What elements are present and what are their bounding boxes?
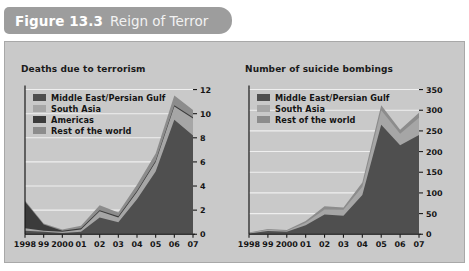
x-tick-label: 05	[376, 240, 387, 249]
legend-item: South Asia	[33, 103, 165, 114]
legend-right: Middle East/Persian GulfSouth AsiaRest o…	[257, 92, 389, 125]
y-tick-label: 0	[426, 230, 432, 239]
x-tick-label: 01	[75, 240, 86, 249]
x-tick-label: 99	[38, 240, 50, 249]
y-tick-label: 10	[200, 110, 212, 119]
legend-item-label: South Asia	[51, 104, 101, 114]
y-tick-label: 50	[426, 210, 438, 219]
legend-item-label: Middle East/Persian Gulf	[51, 93, 165, 103]
legend-swatch-icon	[257, 94, 270, 101]
y-tick-label: 2	[200, 206, 206, 215]
charts-panel: Deaths due to terrorism 1998992000010203…	[4, 41, 465, 263]
legend-item-label: Rest of the world	[51, 126, 131, 136]
x-tick-label: 02	[319, 240, 330, 249]
y-tick-label: 100	[426, 189, 443, 198]
y-tick-label: 300	[426, 106, 443, 115]
legend-swatch-icon	[33, 105, 46, 112]
x-tick-label: 04	[131, 240, 143, 249]
x-tick-label: 05	[150, 240, 161, 249]
legend-item-label: Americas	[51, 115, 94, 125]
y-tick-label: 0	[200, 230, 206, 239]
y-tick-label: 4	[200, 182, 206, 191]
y-tick-label: 150	[426, 168, 443, 177]
x-tick-label: 2000	[51, 240, 74, 249]
legend-item: Middle East/Persian Gulf	[257, 92, 389, 103]
legend-left: Middle East/Persian GulfSouth AsiaAmeric…	[33, 92, 165, 136]
chart-number-of-suicide-bombings: Number of suicide bombings 1998992000010…	[233, 42, 466, 262]
x-tick-label: 06	[395, 240, 407, 249]
legend-item: Americas	[33, 114, 165, 125]
legend-item: Rest of the world	[33, 125, 165, 136]
chart-plot-right: 1998992000010203040506070501001502002503…	[233, 42, 466, 262]
legend-item: Middle East/Persian Gulf	[33, 92, 165, 103]
legend-swatch-icon	[33, 116, 46, 123]
x-tick-label: 1998	[238, 240, 261, 249]
legend-item-label: Rest of the world	[275, 115, 355, 125]
y-tick-label: 350	[426, 86, 443, 95]
chart-deaths-due-to-terrorism: Deaths due to terrorism 1998992000010203…	[5, 42, 233, 262]
x-tick-label: 03	[113, 240, 124, 249]
x-tick-label: 01	[300, 240, 311, 249]
chart-plot-left: 199899200001020304050607024681012	[5, 42, 233, 262]
legend-item: Rest of the world	[257, 114, 389, 125]
legend-swatch-icon	[257, 116, 270, 123]
y-tick-label: 200	[426, 148, 443, 157]
legend-item: South Asia	[257, 103, 389, 114]
legend-swatch-icon	[33, 94, 46, 101]
y-tick-label: 250	[426, 127, 443, 136]
x-tick-label: 99	[262, 240, 274, 249]
x-tick-label: 2000	[276, 240, 299, 249]
x-tick-label: 04	[357, 240, 369, 249]
y-tick-label: 6	[200, 158, 206, 167]
figure-header-bar: Figure 13.3 Reign of Terror	[4, 7, 232, 34]
figure-title: Reign of Terror	[110, 13, 208, 29]
x-tick-label: 06	[169, 240, 181, 249]
x-tick-label: 03	[338, 240, 349, 249]
x-tick-label: 1998	[14, 240, 37, 249]
legend-item-label: Middle East/Persian Gulf	[275, 93, 389, 103]
figure-container: Figure 13.3 Reign of Terror Deaths due t…	[0, 0, 469, 271]
legend-swatch-icon	[257, 105, 270, 112]
x-tick-label: 07	[413, 240, 424, 249]
legend-swatch-icon	[33, 127, 46, 134]
x-tick-label: 02	[94, 240, 105, 249]
y-tick-label: 12	[200, 86, 211, 95]
x-tick-label: 07	[187, 240, 198, 249]
figure-number: Figure 13.3	[15, 13, 103, 29]
y-tick-label: 8	[200, 134, 206, 143]
legend-item-label: South Asia	[275, 104, 325, 114]
